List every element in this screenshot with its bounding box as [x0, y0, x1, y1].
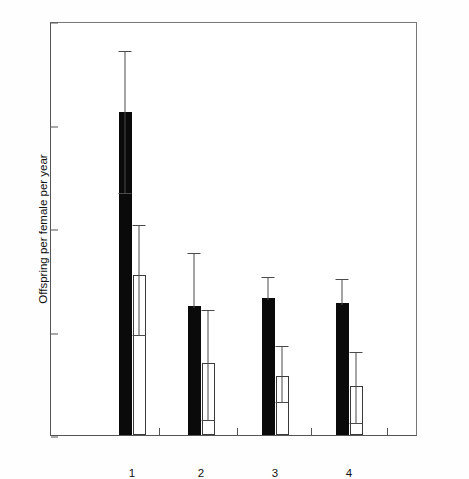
y-tick-mark [51, 437, 58, 438]
x-tick-label: 1 [129, 467, 135, 479]
error-bar-stem [342, 279, 343, 305]
x-tick-mark [159, 428, 160, 435]
error-bar-stem [139, 225, 140, 336]
error-bar-stem [194, 253, 195, 307]
bar-filled-rank-4 [336, 303, 349, 435]
error-bar-cap-bottom [276, 402, 289, 403]
chart-figure: Offspring per female per year 0.00.20.40… [0, 0, 469, 479]
y-tick-mark [51, 23, 58, 24]
x-tick-mark [311, 428, 312, 435]
y-tick-mark [51, 333, 58, 334]
x-tick-label: 2 [198, 467, 204, 479]
x-tick-label: 4 [346, 467, 352, 479]
x-tick-mark [237, 428, 238, 435]
error-bar-stem [356, 352, 357, 424]
error-bar-cap-top [188, 253, 201, 254]
error-bar-cap-bottom [202, 420, 215, 421]
bar-filled-rank-2 [188, 306, 201, 435]
error-bar-cap-top [133, 225, 146, 226]
x-tick-label: 3 [272, 467, 278, 479]
error-bar-cap-top [336, 279, 349, 280]
error-bar-filled-rank-4 [336, 279, 349, 305]
error-bar-filled-rank-3 [262, 277, 275, 300]
error-bar-stem [125, 51, 126, 193]
y-tick-mark [51, 126, 58, 127]
bar-filled-rank-3 [262, 298, 275, 435]
error-bar-open-rank-1 [133, 225, 146, 336]
error-bar-filled-rank-1 [119, 51, 132, 193]
error-bar-cap-bottom [133, 335, 146, 336]
error-bar-cap-top [119, 51, 132, 52]
error-bar-stem [282, 346, 283, 403]
plot-area: Offspring per female per year 0.00.20.40… [50, 22, 417, 436]
error-bar-cap-top [262, 277, 275, 278]
error-bar-cap-top [202, 310, 215, 311]
error-bar-stem [208, 310, 209, 421]
y-axis-label: Offspring per female per year [37, 154, 49, 303]
error-bar-open-rank-4 [350, 352, 363, 424]
y-tick-mark [51, 230, 58, 231]
error-bar-open-rank-3 [276, 346, 289, 403]
error-bar-cap-top [350, 352, 363, 353]
error-bar-cap-bottom [119, 193, 132, 194]
error-bar-cap-bottom [350, 423, 363, 424]
error-bar-stem [268, 277, 269, 300]
x-tick-mark [387, 428, 388, 435]
error-bar-cap-top [276, 346, 289, 347]
error-bar-filled-rank-2 [188, 253, 201, 307]
error-bar-open-rank-2 [202, 310, 215, 421]
